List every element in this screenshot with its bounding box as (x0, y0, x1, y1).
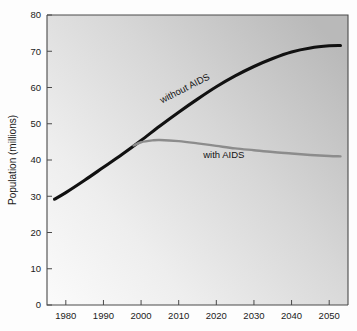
y-axis-tick-labels: 01020304050607080 (30, 9, 41, 310)
x-tick-label: 2020 (206, 310, 227, 321)
plot-area-background (47, 15, 348, 305)
y-tick-label: 20 (30, 227, 41, 238)
y-tick-label: 60 (30, 82, 41, 93)
y-tick-label: 80 (30, 9, 41, 20)
chart-canvas: 01020304050607080 1980199020002010202020… (0, 0, 357, 331)
x-tick-label: 2030 (243, 310, 264, 321)
x-tick-label: 2040 (281, 310, 302, 321)
y-tick-label: 70 (30, 46, 41, 57)
y-tick-label: 40 (30, 154, 41, 165)
x-tick-label: 2050 (319, 310, 340, 321)
x-tick-label: 2000 (130, 310, 151, 321)
x-tick-label: 2010 (168, 310, 189, 321)
y-tick-label: 50 (30, 118, 41, 129)
y-axis-title: Population (millions) (7, 115, 18, 205)
y-tick-label: 30 (30, 191, 41, 202)
y-tick-label: 10 (30, 263, 41, 274)
x-tick-label: 1980 (55, 310, 76, 321)
x-tick-label: 1990 (93, 310, 114, 321)
y-tick-label: 0 (36, 299, 41, 310)
chart-figure: 01020304050607080 1980199020002010202020… (0, 0, 357, 331)
annotation-label: with AIDS (202, 149, 244, 160)
